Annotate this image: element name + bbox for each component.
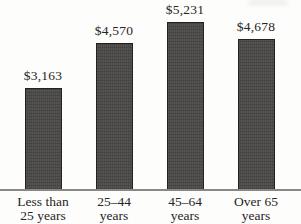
bar-value-label: $4,678: [216, 19, 296, 34]
bar-value-label: $5,231: [145, 2, 225, 17]
bar: [238, 39, 275, 190]
bar-value-label: $3,163: [3, 68, 83, 83]
bar-value-label: $4,570: [74, 23, 154, 38]
scan-artifact: [248, 0, 288, 5]
bar-chart-figure: $3,163$4,570$5,231$4,678 Less than25 yea…: [0, 0, 301, 224]
x-tick-label: 25–44years: [74, 195, 154, 222]
x-tick-label: Less than25 years: [3, 195, 83, 222]
bar: [167, 22, 204, 190]
bar: [25, 88, 62, 190]
x-tick-label: Over 65years: [216, 195, 296, 222]
x-tick-label: 45–64years: [145, 195, 225, 222]
x-axis-line: [0, 189, 301, 191]
bar: [96, 43, 133, 190]
